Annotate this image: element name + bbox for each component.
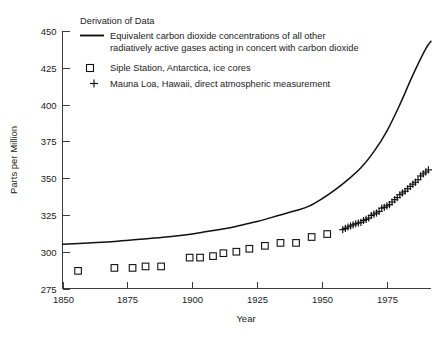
legend-plus-swatch-icon	[90, 80, 98, 88]
data-point-square	[75, 268, 82, 275]
data-point-square	[111, 265, 118, 272]
data-point-square	[233, 248, 240, 255]
data-point-square	[246, 245, 253, 252]
data-point-square	[210, 253, 217, 260]
legend-label-equivalent-co2-line2: radiatively active gases acting in conce…	[110, 43, 359, 53]
y-axis-title: Parts per Million	[8, 126, 19, 194]
x-tick-label: 1925	[247, 294, 268, 305]
x-tick-label: 1975	[377, 294, 398, 305]
data-point-square	[308, 234, 315, 241]
y-tick-label: 425	[41, 63, 57, 74]
y-axis-tick-labels: 275300325350375400425450	[41, 26, 57, 295]
chart-svg: 275300325350375400425450 185018751900192…	[0, 0, 445, 337]
x-tick-label: 1875	[117, 294, 138, 305]
x-tick-label: 1850	[53, 294, 74, 305]
data-point-square	[277, 240, 284, 247]
y-tick-label: 350	[41, 173, 57, 184]
y-tick-label: 325	[41, 210, 57, 221]
legend-square-swatch-icon	[87, 65, 94, 72]
x-axis-tick-labels: 185018751900192519501975	[53, 294, 398, 305]
legend-label-siple-station: Siple Station, Antarctica, ice cores	[110, 63, 251, 73]
y-tick-label: 375	[41, 136, 57, 147]
data-point-square	[129, 265, 136, 272]
data-point-square	[324, 231, 331, 238]
x-tick-label: 1900	[182, 294, 203, 305]
chart-figure: 275300325350375400425450 185018751900192…	[0, 0, 445, 337]
data-point-square	[142, 263, 149, 270]
series-mauna-loa-markers	[339, 166, 432, 233]
data-point-square	[220, 250, 227, 257]
data-point-square	[262, 243, 269, 250]
legend-label-equivalent-co2-line1: Equivalent carbon dioxide concentrations…	[110, 31, 326, 41]
x-axis-title: Year	[236, 313, 255, 324]
data-point-square	[186, 254, 193, 261]
series-siple-station-markers	[75, 231, 331, 274]
data-point-square	[197, 254, 204, 261]
x-tick-label: 1950	[312, 294, 333, 305]
chart-legend: Derivation of Data Equivalent carbon dio…	[80, 16, 359, 89]
data-point-square	[293, 240, 300, 247]
legend-heading: Derivation of Data	[80, 16, 155, 26]
y-tick-label: 300	[41, 247, 57, 258]
legend-label-mauna-loa: Mauna Loa, Hawaii, direct atmospheric me…	[110, 79, 331, 89]
data-point-square	[158, 263, 165, 270]
y-tick-label: 400	[41, 100, 57, 111]
x-axis-ticks	[64, 282, 388, 289]
y-axis-ticks	[63, 32, 70, 290]
y-tick-label: 450	[41, 26, 57, 37]
